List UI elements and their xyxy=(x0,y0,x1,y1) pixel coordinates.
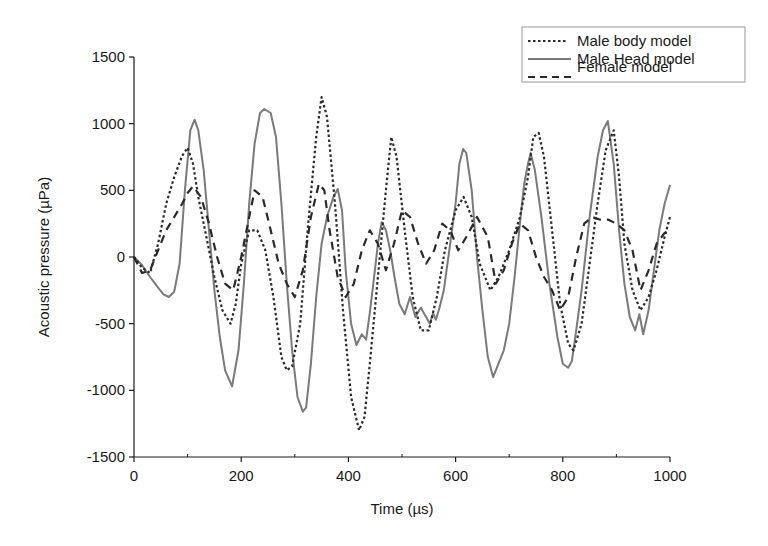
series-line-male-head-model xyxy=(134,109,670,412)
x-tick-label: 600 xyxy=(443,467,468,484)
y-tick-label: -1000 xyxy=(87,381,125,398)
y-tick-label: -1500 xyxy=(87,448,125,465)
x-tick-label: 800 xyxy=(550,467,575,484)
x-tick-label: 200 xyxy=(229,467,254,484)
y-tick-label: -500 xyxy=(95,315,125,332)
legend: Male body model Male Head model Female m… xyxy=(522,27,745,82)
x-axis-title: Time (µs) xyxy=(370,500,433,517)
legend-label-male-body: Male body model xyxy=(577,32,691,49)
y-tick-label: 1500 xyxy=(92,48,125,65)
x-ticks: 02004006008001000 xyxy=(130,454,687,484)
x-tick-label: 0 xyxy=(130,467,138,484)
y-axis-title: Acoustic pressure (µPa) xyxy=(35,177,52,337)
chart: 02004006008001000 -1500-1000-50005001000… xyxy=(0,0,768,546)
x-tick-label: 1000 xyxy=(653,467,686,484)
y-tick-label: 500 xyxy=(100,181,125,198)
plot-lines xyxy=(134,97,670,430)
series-line-male-body-model xyxy=(134,97,670,430)
x-tick-label: 400 xyxy=(336,467,361,484)
y-tick-label: 0 xyxy=(117,248,125,265)
y-ticks: -1500-1000-500050010001500 xyxy=(87,48,134,465)
legend-label-female: Female model xyxy=(577,58,672,75)
y-tick-label: 1000 xyxy=(92,115,125,132)
